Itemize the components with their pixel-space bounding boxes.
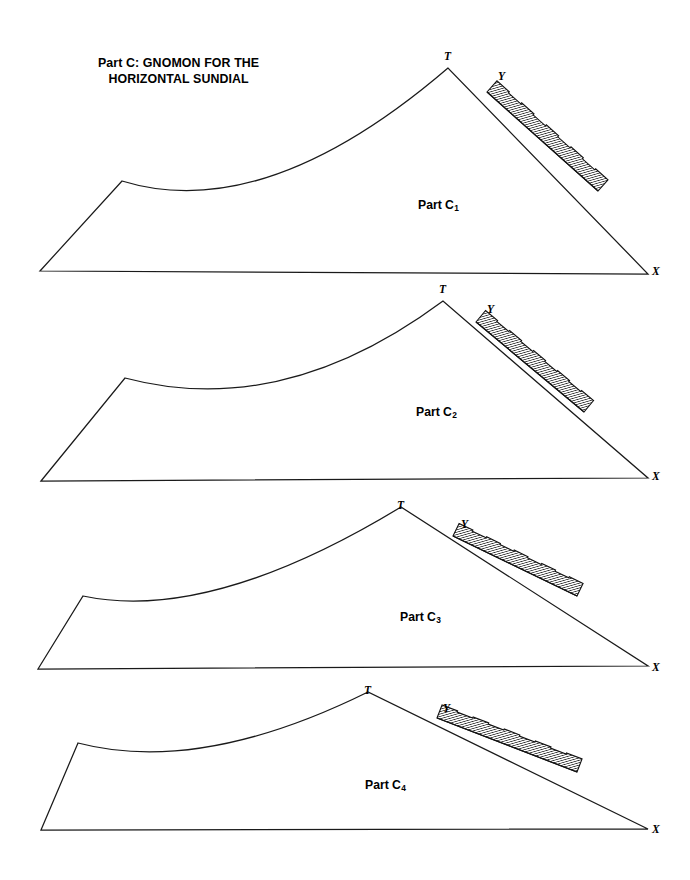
caption-subscript: 3 [436, 615, 441, 625]
vertex-label-y-part-c3: Y [461, 518, 468, 530]
caption-part-c4: Part C4 [365, 778, 406, 792]
gnomon-outline [38, 507, 648, 669]
vertex-label-x-part-c2: X [652, 470, 660, 482]
gnomon-part-c3 [38, 507, 648, 669]
page-title: Part C: GNOMON FOR THE HORIZONTAL SUNDIA… [98, 56, 259, 87]
gnomon-outline [40, 68, 648, 274]
vertex-label-x-part-c1: X [652, 265, 660, 277]
vertex-label-y-part-c1: Y [498, 70, 505, 82]
vertex-label-y-part-c4: Y [443, 702, 450, 714]
gnomon-part-c4 [41, 692, 648, 830]
caption-part-c2: Part C2 [416, 405, 457, 419]
vertex-label-t-part-c3: T [397, 499, 404, 511]
caption-subscript: 2 [452, 410, 457, 420]
caption-subscript: 1 [454, 203, 459, 213]
gnomon-part-c2 [41, 301, 648, 481]
gnomon-part-c1 [40, 68, 648, 274]
caption-subscript: 4 [401, 783, 406, 793]
vertex-label-t-part-c2: T [439, 283, 446, 295]
caption-part-c1: Part C1 [418, 198, 459, 212]
gnomon-outline [41, 301, 648, 481]
figures-layer [38, 68, 648, 830]
vertex-label-t-part-c1: T [444, 50, 451, 62]
gnomon-figure-svg [0, 0, 690, 880]
vertex-label-x-part-c4: X [652, 823, 660, 835]
vertex-label-y-part-c2: Y [487, 303, 494, 315]
diagram-sheet: Part C: GNOMON FOR THE HORIZONTAL SUNDIA… [0, 0, 690, 880]
vertex-label-x-part-c3: X [652, 661, 660, 673]
caption-part-c3: Part C3 [400, 610, 441, 624]
vertex-label-t-part-c4: T [364, 684, 371, 696]
